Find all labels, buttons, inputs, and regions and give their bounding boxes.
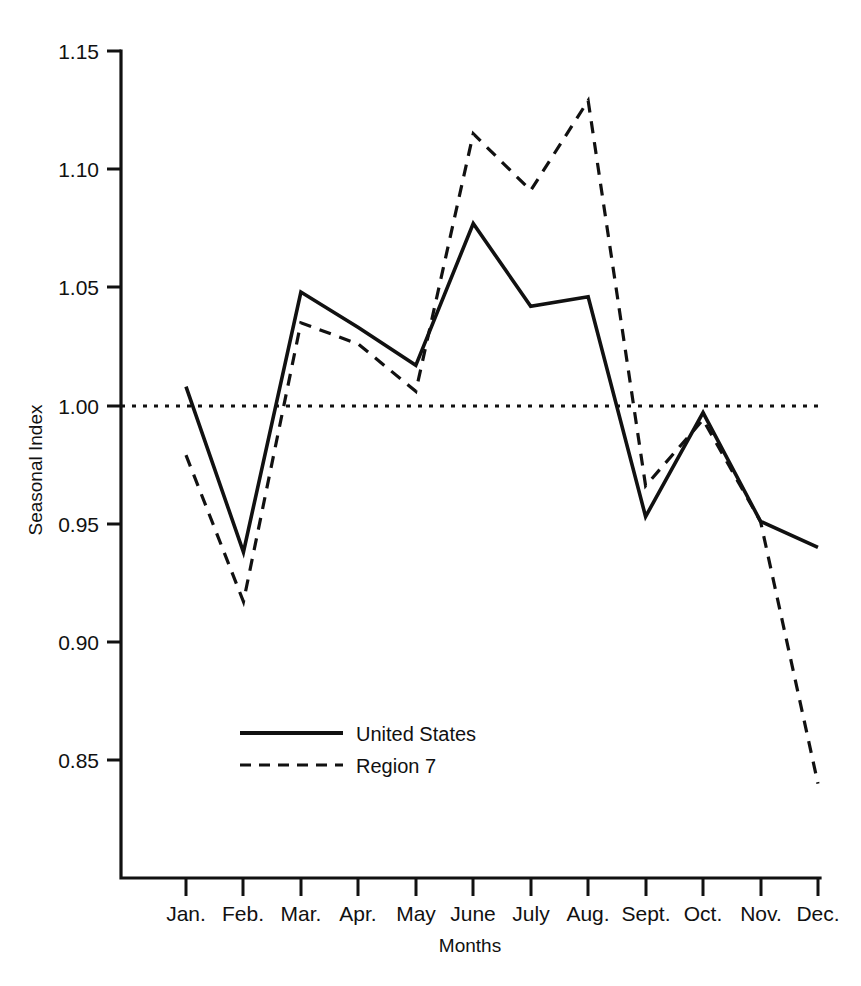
legend-label-united-states: United States [356, 723, 476, 745]
seasonal-index-figure: 1.15 1.10 1.05 1.00 0.95 0.90 0.85 Jan. [0, 0, 861, 986]
x-tick-label-may: May [396, 902, 436, 925]
series-line-united-states [186, 224, 818, 553]
x-tick-label-sept: Sept. [621, 902, 670, 925]
y-tick-label: 1.05 [58, 276, 99, 299]
x-axis-title: Months [439, 935, 501, 956]
line-chart-canvas: 1.15 1.10 1.05 1.00 0.95 0.90 0.85 Jan. [0, 0, 861, 986]
x-tick-label-oct: Oct. [684, 902, 723, 925]
y-tick-label: 1.15 [58, 40, 99, 63]
axis-frame [121, 51, 820, 878]
y-tick-marks [107, 51, 121, 760]
x-tick-labels: Jan. Feb. Mar. Apr. May June July Aug. S… [166, 902, 839, 925]
y-axis-title: Seasonal Index [25, 404, 46, 535]
x-tick-label-aug: Aug. [566, 902, 609, 925]
x-tick-label-july: July [512, 902, 550, 925]
x-tick-label-feb: Feb. [222, 902, 264, 925]
x-tick-label-nov: Nov. [740, 902, 782, 925]
x-tick-label-apr: Apr. [339, 902, 376, 925]
y-tick-label: 0.85 [58, 749, 99, 772]
x-tick-label-jan: Jan. [166, 902, 206, 925]
x-tick-label-dec: Dec. [796, 902, 839, 925]
y-tick-label: 1.10 [58, 158, 99, 181]
x-tick-marks [186, 878, 818, 896]
y-tick-label: 0.95 [58, 513, 99, 536]
x-tick-label-mar: Mar. [281, 902, 322, 925]
x-tick-label-june: June [450, 902, 496, 925]
y-tick-label: 0.90 [58, 631, 99, 654]
y-tick-label: 1.00 [58, 395, 99, 418]
legend: United States Region 7 [240, 723, 476, 777]
series-line-region-7 [186, 101, 818, 784]
legend-label-region-7: Region 7 [356, 755, 436, 777]
y-tick-labels: 1.15 1.10 1.05 1.00 0.95 0.90 0.85 [58, 40, 99, 772]
